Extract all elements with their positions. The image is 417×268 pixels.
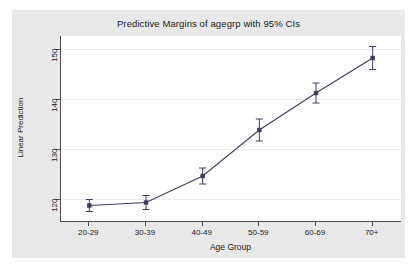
data-marker — [370, 56, 374, 60]
plot-area — [60, 36, 401, 222]
y-tick-label: 140 — [50, 98, 59, 120]
data-point-group — [199, 168, 206, 184]
x-tick-mark — [372, 222, 373, 226]
data-marker — [87, 203, 91, 207]
x-tick-label: 50-59 — [248, 228, 268, 237]
y-tick-label: 120 — [50, 198, 59, 220]
series-layer — [61, 36, 401, 221]
data-marker — [144, 200, 148, 204]
plot-inner — [61, 36, 401, 221]
data-point-group — [369, 47, 376, 70]
x-tick-mark — [315, 222, 316, 226]
x-axis-title: Age Group — [60, 242, 401, 252]
data-marker — [257, 128, 261, 132]
data-marker — [314, 91, 318, 95]
x-tick-mark — [202, 222, 203, 226]
y-tick-label: 130 — [50, 148, 59, 170]
x-tick-label: 60-69 — [305, 228, 325, 237]
x-tick-label: 30-39 — [135, 228, 155, 237]
data-marker — [200, 174, 204, 178]
x-tick-mark — [145, 222, 146, 226]
data-point-group — [256, 119, 263, 141]
x-tick-mark — [258, 222, 259, 226]
x-tick-mark — [88, 222, 89, 226]
x-tick-label: 70+ — [365, 228, 379, 237]
series-line — [89, 58, 372, 206]
x-tick-label: 20-29 — [78, 228, 98, 237]
x-tick-label: 40-49 — [191, 228, 211, 237]
chart-screenshot: Predictive Margins of agegrp with 95% CI… — [0, 0, 417, 268]
y-axis-title: Linear Prediction — [16, 77, 25, 177]
data-point-group — [313, 83, 320, 103]
chart-title: Predictive Margins of agegrp with 95% CI… — [12, 18, 405, 29]
y-tick-label: 150 — [50, 48, 59, 70]
